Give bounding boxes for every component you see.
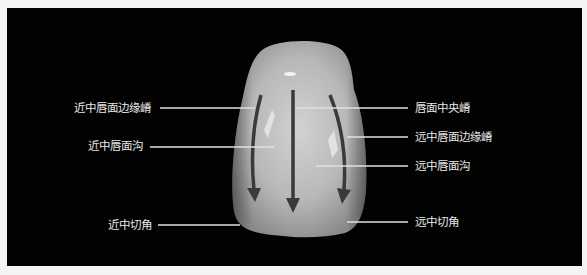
- highlight: [284, 72, 296, 76]
- tooth-diagram: [0, 0, 587, 275]
- label-mesial-labial-groove: 近中唇面沟: [88, 139, 143, 153]
- label-mesial-incisal-angle: 近中切角: [108, 218, 152, 232]
- label-distal-labial-groove: 远中唇面沟: [415, 159, 470, 173]
- label-labial-central-ridge: 唇面中央嵴: [415, 101, 470, 115]
- label-distal-incisal-angle: 远中切角: [415, 215, 459, 229]
- label-distal-labial-marginal-ridge: 远中唇面边缘嵴: [415, 130, 492, 144]
- label-mesial-labial-marginal-ridge: 近中唇面边缘嵴: [74, 101, 151, 115]
